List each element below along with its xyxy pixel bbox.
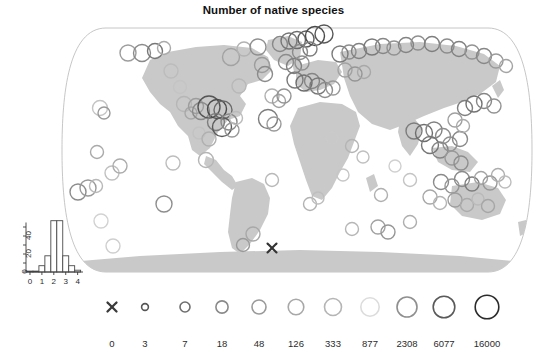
legend-x-marker[interactable] (108, 303, 117, 312)
legend-value-label: 333 (325, 338, 341, 349)
legend-circle[interactable] (361, 298, 379, 316)
histogram-bar (39, 266, 45, 272)
legend-value-label: 16000 (474, 338, 500, 349)
world-map (0, 0, 547, 353)
legend-circle[interactable] (325, 299, 342, 316)
histogram-bar (51, 221, 57, 272)
histogram-xtick-label: 3 (63, 277, 67, 286)
histogram-bar (45, 256, 51, 272)
legend-value-label: 18 (217, 338, 228, 349)
figure-panel: Number of native species 037184812633387… (0, 0, 547, 353)
legend-value-label: 7 (182, 338, 187, 349)
histogram-ytick-label: 20 (24, 249, 33, 258)
legend-value-label: 0 (109, 338, 114, 349)
legend-circle[interactable] (288, 299, 304, 315)
legend-circle[interactable] (252, 300, 266, 314)
histogram-bar (63, 256, 69, 272)
legend-value-label: 877 (362, 338, 378, 349)
legend-circle[interactable] (142, 304, 149, 311)
legend-circle[interactable] (397, 297, 417, 317)
histogram-ytick-label: 0 (20, 269, 29, 273)
histogram-ytick-label: 40 (24, 231, 33, 240)
histogram-xtick-label: 2 (52, 277, 56, 286)
legend-value-label: 126 (288, 338, 304, 349)
legend-value-label: 6077 (433, 338, 454, 349)
legend-circle[interactable] (475, 295, 499, 319)
histogram-xtick-label: 1 (40, 277, 44, 286)
histogram-xtick-label: 0 (28, 277, 32, 286)
histogram-bar (57, 221, 63, 272)
legend-circle[interactable] (433, 296, 455, 318)
legend-value-label: 2308 (396, 338, 417, 349)
histogram-bar (69, 266, 75, 272)
legend-symbols (108, 295, 499, 319)
legend-circle[interactable] (216, 301, 228, 313)
legend-value-label: 48 (254, 338, 265, 349)
legend-value-label: 3 (142, 338, 147, 349)
legend-circle[interactable] (180, 302, 190, 312)
histogram-xtick-label: 4 (75, 277, 79, 286)
